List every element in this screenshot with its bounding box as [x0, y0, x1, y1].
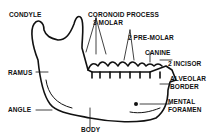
- label-condyle: CONDYLE: [9, 11, 41, 18]
- label-mental: MENTAL: [168, 98, 195, 105]
- label-body: BODY: [81, 126, 100, 133]
- label-angle: ANGLE: [8, 106, 31, 113]
- label-foramen: FORAMEN: [168, 106, 202, 113]
- label-incisor: 2 INCISOR: [168, 60, 201, 67]
- label-coronoid-process: CORONOID PROCESS: [88, 11, 159, 18]
- mandible-diagram: CONDYLE CORONOID PROCESS 3 MOLAR 2 PRE-M…: [0, 0, 216, 137]
- label-canine: CANINE: [145, 49, 171, 56]
- label-premolar: 2 PRE-MOLAR: [128, 34, 174, 41]
- label-alveolar: ALVEOLAR: [170, 75, 206, 82]
- label-molar: 3 MOLAR: [93, 19, 123, 26]
- label-border: BORDER: [170, 83, 199, 90]
- label-ramus: RAMUS: [8, 69, 32, 76]
